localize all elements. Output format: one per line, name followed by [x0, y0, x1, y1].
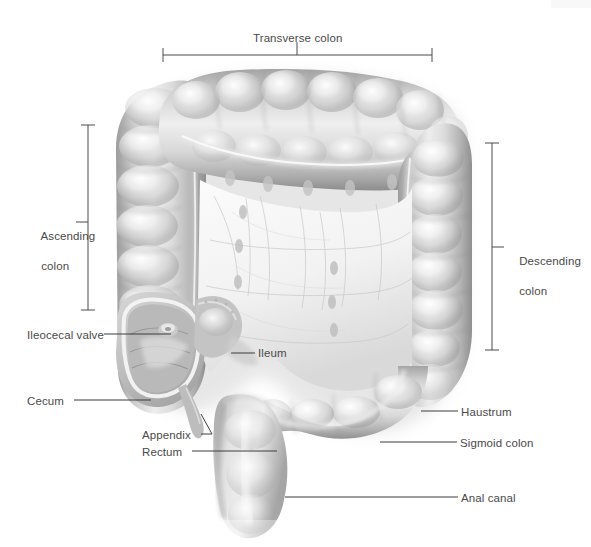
label-ascending-colon-line1: Ascending — [41, 230, 96, 242]
label-haustrum: Haustrum — [461, 405, 512, 419]
label-appendix: Appendix — [142, 428, 191, 442]
label-descending-colon-line2: colon — [519, 285, 547, 297]
label-descending-colon-line1: Descending — [519, 255, 581, 267]
leader-appendix — [201, 414, 212, 434]
label-ascending-colon-line2: colon — [41, 260, 69, 272]
label-anal-canal: Anal canal — [461, 491, 516, 505]
label-cecum: Cecum — [27, 394, 64, 408]
label-rectum: Rectum — [142, 445, 182, 459]
label-transverse-colon: Transverse colon — [253, 31, 342, 45]
anatomy-figure: Transverse colon Ascending colon Descend… — [0, 0, 591, 547]
label-ascending-colon: Ascending colon — [28, 214, 95, 289]
bracket-transverse-colon — [163, 42, 432, 62]
bracket-descending-colon — [485, 143, 504, 350]
corner-artifact — [551, 0, 591, 8]
label-descending-colon: Descending colon — [506, 239, 581, 314]
label-sigmoid-colon: Sigmoid colon — [460, 436, 534, 450]
label-ileocecal-valve: Ileocecal valve — [27, 328, 104, 342]
label-ileum: Ileum — [258, 346, 287, 360]
